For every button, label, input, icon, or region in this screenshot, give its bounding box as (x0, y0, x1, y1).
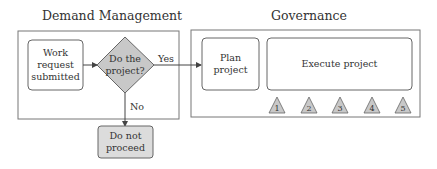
execute-project-label: Execute project (302, 58, 378, 69)
governance-title: Governance (271, 8, 347, 23)
decision-line-1: Do the (109, 53, 141, 64)
do-not-proceed-line-1: Do not (109, 130, 141, 141)
milestone-label-1: 1 (274, 104, 279, 113)
plan-project-line-1: Plan (220, 52, 241, 63)
milestone-label-5: 5 (400, 104, 405, 113)
demand-management-title: Demand Management (42, 8, 182, 23)
milestone-label-2: 2 (306, 104, 311, 113)
do-not-proceed-line-2: proceed (106, 142, 145, 153)
milestone-label-3: 3 (337, 104, 342, 113)
diagram: Demand Management Governance Work reques… (0, 0, 437, 169)
plan-project-line-2: project (213, 64, 247, 75)
work-request-line-1: Work (43, 47, 68, 58)
decision-line-2: project? (105, 65, 144, 76)
no-label: No (130, 101, 144, 112)
work-request-line-2: request (37, 59, 74, 70)
yes-label: Yes (157, 53, 174, 64)
work-request-line-3: submitted (31, 71, 79, 82)
milestone-label-4: 4 (369, 104, 374, 113)
